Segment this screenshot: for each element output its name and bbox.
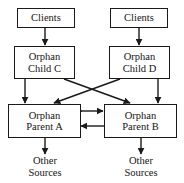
edge-child-d-to-parent-a (54, 79, 120, 103)
node-orphan-parent-a-line2: Parent A (26, 121, 62, 132)
node-orphan-child-c-line1: Orphan (29, 51, 61, 62)
node-orphan-child-c: Orphan Child C (14, 46, 75, 79)
node-other-sources-left: Other Sources (14, 155, 76, 178)
node-orphan-parent-b-line2: Parent B (122, 121, 158, 132)
orphan-node-diagram: Clients Clients Orphan Child C Orphan Ch… (0, 0, 184, 183)
node-clients-left-label: Clients (31, 12, 61, 23)
node-orphan-child-c-line2: Child C (28, 63, 61, 74)
node-orphan-parent-b: Orphan Parent B (104, 104, 177, 138)
node-other-sources-left-line1: Other (33, 155, 57, 167)
node-orphan-child-d: Orphan Child D (109, 46, 170, 79)
node-orphan-parent-a-line1: Orphan (29, 110, 61, 121)
node-clients-left: Clients (17, 8, 75, 28)
node-other-sources-right-line2: Sources (124, 167, 157, 179)
node-other-sources-right-line1: Other (129, 155, 153, 167)
edge-child-c-to-parent-b (64, 79, 130, 103)
node-clients-right-label: Clients (124, 12, 154, 23)
node-orphan-child-d-line1: Orphan (124, 51, 156, 62)
node-orphan-child-d-line2: Child D (123, 63, 157, 74)
node-orphan-parent-a: Orphan Parent A (8, 104, 81, 138)
node-clients-right: Clients (110, 8, 168, 28)
node-other-sources-left-line2: Sources (28, 167, 61, 179)
node-other-sources-right: Other Sources (110, 155, 172, 178)
node-orphan-parent-b-line1: Orphan (125, 110, 157, 121)
